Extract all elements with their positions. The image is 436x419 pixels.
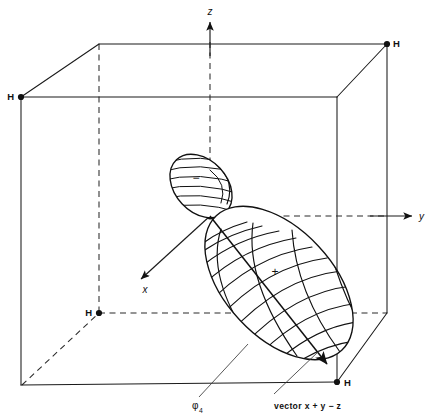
molecular-orbital-figure: − (0, 0, 436, 419)
atom-dot-back-top-right (384, 41, 390, 47)
positive-lobe-sign: + (271, 265, 278, 279)
orbital-label-group: φ 4 (192, 400, 203, 414)
atom-label-front-top-left: H (7, 91, 14, 102)
atom-label-back-top-right: H (393, 38, 400, 49)
atom-label-front-bottom-right: H (344, 377, 351, 388)
leader-orbital-label (199, 344, 248, 397)
negative-lobe-sign: − (192, 171, 199, 185)
atom-dot-front-bottom-right (334, 379, 340, 385)
y-axis-label: y (418, 211, 425, 222)
x-axis-label: x (142, 284, 149, 295)
atom-dot-back-bottom-left (96, 310, 102, 316)
vector-label: vector x + y − z (274, 401, 341, 411)
x-axis-arrow (141, 216, 210, 279)
atom-label-back-bottom-left: H (85, 307, 92, 318)
figure-canvas: − (0, 0, 436, 419)
orbital-label-subscript: 4 (199, 407, 203, 414)
atom-dot-front-top-left (18, 94, 24, 100)
z-axis-label: z (207, 6, 213, 17)
orbital-label: φ (192, 400, 199, 411)
